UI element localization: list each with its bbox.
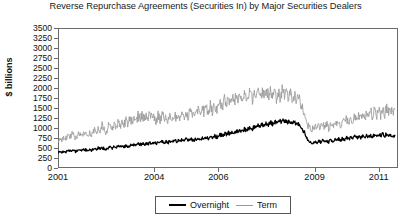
y-axis-tick-label: 500: [12, 144, 52, 153]
y-axis-tick-label: 250: [12, 154, 52, 163]
x-axis-tick-mark: [154, 168, 155, 172]
chart-title: Reverse Repurchase Agreements (Securitie…: [0, 1, 411, 11]
y-axis-tick-label: 1500: [12, 104, 52, 113]
x-axis-tick-label: 2011: [356, 172, 402, 182]
legend-label-overnight: Overnight: [190, 200, 229, 210]
chart-legend: Overnight Term: [155, 196, 291, 214]
y-axis-tick-label: 1750: [12, 94, 52, 103]
chart-figure: Reverse Repurchase Agreements (Securitie…: [0, 0, 411, 220]
series-canvas: [58, 28, 398, 168]
legend-entry-overnight[interactable]: Overnight: [169, 200, 229, 210]
plot-area: [58, 28, 398, 168]
x-axis-tick-mark: [379, 168, 380, 172]
y-axis-tick-label: 3500: [12, 24, 52, 33]
x-axis-tick-label: 2006: [195, 172, 241, 182]
x-axis-tick-label: 2004: [131, 172, 177, 182]
y-axis-tick-label: 0: [12, 164, 52, 173]
legend-entry-term[interactable]: Term: [236, 200, 277, 210]
y-axis-tick-label: 2750: [12, 54, 52, 63]
y-axis-tick-label: 3250: [12, 34, 52, 43]
y-axis-tick-label: 3000: [12, 44, 52, 53]
y-axis-tick-label: 2000: [12, 84, 52, 93]
legend-swatch-overnight-icon: [169, 204, 186, 206]
x-axis-tick-label: 2009: [292, 172, 338, 182]
y-axis-tick-label: 2250: [12, 74, 52, 83]
x-axis-tick-label: 2001: [35, 172, 81, 182]
legend-label-term: Term: [257, 200, 277, 210]
y-axis-tick-label: 1250: [12, 114, 52, 123]
legend-swatch-term-icon: [236, 205, 253, 206]
x-axis-tick-mark: [218, 168, 219, 172]
y-axis-tick-label: 2500: [12, 64, 52, 73]
y-axis-tick-mark: [54, 168, 58, 169]
y-axis-tick-label: 1000: [12, 124, 52, 133]
y-axis-tick-label: 750: [12, 134, 52, 143]
x-axis-tick-mark: [315, 168, 316, 172]
